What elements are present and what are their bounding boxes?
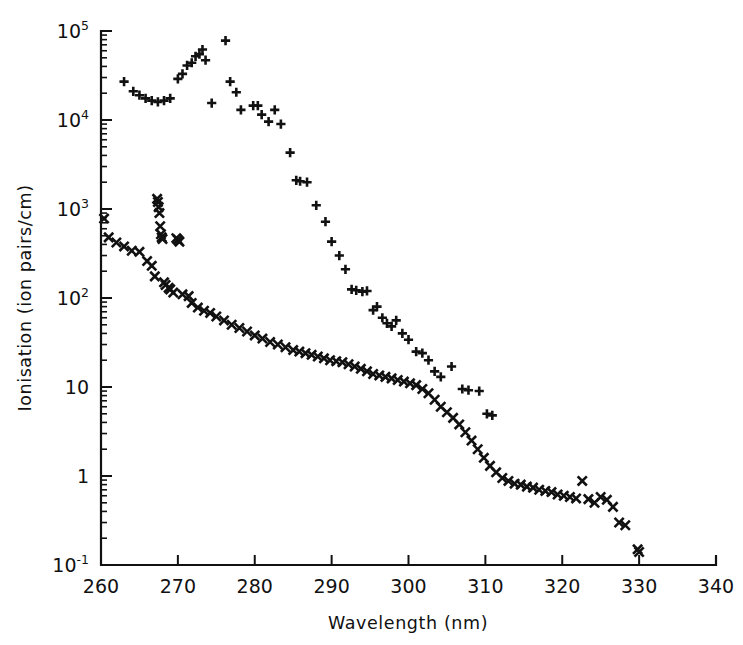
y-tick-label: 10	[65, 376, 89, 398]
data-point-plus	[201, 56, 210, 65]
data-point-plus	[253, 101, 262, 110]
data-point-plus	[207, 98, 216, 107]
data-point-plus	[276, 119, 285, 128]
y-axis-title: Ionisation (ion pairs/cm)	[15, 184, 35, 411]
y-tick-label: 102	[57, 285, 89, 309]
data-point-plus	[412, 347, 421, 356]
y-tick-label: 10-1	[52, 552, 89, 576]
data-point-plus	[270, 105, 279, 114]
data-point-plus	[392, 316, 401, 325]
data-point-cross	[169, 288, 178, 297]
data-point-plus	[226, 77, 235, 86]
data-point-plus	[302, 178, 311, 187]
x-axis-ticks	[101, 555, 716, 565]
data-point-plus	[321, 217, 330, 226]
x-axis-title: Wavelength (nm)	[328, 613, 488, 633]
data-series-upper-plus	[119, 36, 496, 420]
data-point-plus	[464, 386, 473, 395]
y-axis-tick-labels: 10-1110102103104105	[52, 18, 89, 576]
y-tick-label: 105	[57, 18, 89, 42]
data-point-plus	[119, 77, 128, 86]
data-point-cross	[147, 261, 156, 270]
data-point-plus	[257, 110, 266, 119]
data-point-cross	[479, 453, 488, 462]
data-point-plus	[447, 362, 456, 371]
data-point-cross	[461, 428, 470, 437]
y-tick-label: 104	[57, 107, 89, 131]
data-point-plus	[312, 201, 321, 210]
data-point-plus	[221, 36, 230, 45]
scatter-plot-canvas: 10-1110102103104105 26027028029030031032…	[0, 0, 743, 645]
data-series-lower-cross	[99, 194, 643, 556]
data-point-cross	[155, 208, 164, 217]
data-point-plus	[335, 251, 344, 260]
data-point-plus	[286, 148, 295, 157]
x-tick-label: 260	[83, 575, 119, 597]
axis-lines	[101, 31, 716, 565]
data-point-cross	[150, 272, 159, 281]
data-point-cross	[473, 445, 482, 454]
data-point-cross	[578, 476, 587, 485]
data-point-cross	[135, 247, 144, 256]
data-point-plus	[236, 105, 245, 114]
data-point-plus	[178, 69, 187, 78]
x-tick-label: 310	[467, 575, 503, 597]
data-point-plus	[418, 349, 427, 358]
x-tick-label: 330	[621, 575, 657, 597]
data-point-plus	[488, 411, 497, 420]
x-tick-label: 340	[698, 575, 734, 597]
x-tick-label: 280	[237, 575, 273, 597]
data-point-plus	[327, 237, 336, 246]
data-point-plus	[232, 88, 241, 97]
data-point-plus	[173, 74, 182, 83]
x-tick-label: 300	[390, 575, 426, 597]
data-point-plus	[436, 372, 445, 381]
x-tick-label: 270	[160, 575, 196, 597]
x-tick-label: 320	[544, 575, 580, 597]
data-point-plus	[424, 356, 433, 365]
x-tick-label: 290	[313, 575, 349, 597]
data-point-plus	[398, 329, 407, 338]
data-point-plus	[482, 409, 491, 418]
data-point-plus	[362, 286, 371, 295]
data-point-plus	[378, 313, 387, 322]
axis-frame	[101, 31, 716, 565]
data-point-cross	[467, 436, 476, 445]
data-point-cross	[608, 502, 617, 511]
y-tick-label: 1	[77, 465, 89, 487]
ionisation-spectrum-figure: 10-1110102103104105 26027028029030031032…	[0, 0, 743, 645]
y-axis-ticks	[101, 31, 112, 565]
data-point-cross	[104, 233, 113, 242]
data-point-plus	[341, 265, 350, 274]
x-axis-tick-labels: 260270280290300310320330340	[83, 575, 734, 597]
data-point-plus	[264, 117, 273, 126]
data-point-plus	[404, 335, 413, 344]
y-tick-label: 103	[57, 196, 89, 220]
data-point-plus	[475, 386, 484, 395]
data-point-plus	[430, 367, 439, 376]
